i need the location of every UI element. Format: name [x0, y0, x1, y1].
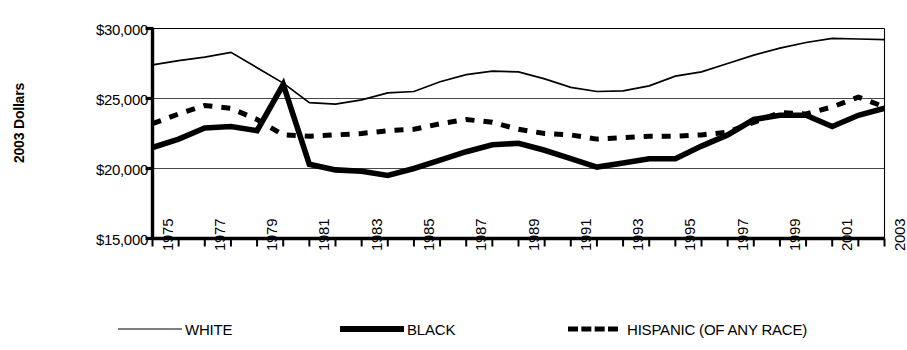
series-lines — [153, 38, 885, 175]
legend-label: WHITE — [185, 321, 232, 338]
legend-label: HISPANIC (OF ANY RACE) — [627, 321, 807, 338]
legend-swatch-icon — [560, 323, 624, 335]
axis-box — [153, 29, 885, 239]
legend-swatch-icon — [118, 323, 182, 335]
gridlines — [153, 99, 885, 169]
chart-legend: WHITEBLACKHISPANIC (OF ANY RACE) — [0, 312, 907, 346]
series-line — [153, 38, 885, 104]
legend-item: BLACK — [340, 318, 455, 340]
legend-label: BLACK — [407, 321, 455, 338]
legend-item: WHITE — [118, 318, 232, 340]
legend-swatch-icon — [340, 323, 404, 335]
chart-figure: 2003 Dollars $30,000$25,000$20,000$15,00… — [0, 0, 907, 350]
legend-item: HISPANIC (OF ANY RACE) — [560, 318, 807, 340]
plot-area — [0, 0, 907, 350]
